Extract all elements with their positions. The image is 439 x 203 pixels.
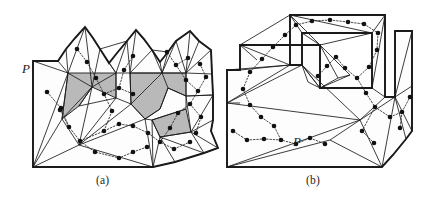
caption-panel-b: (b) [306,174,320,186]
panel-b: P [227,15,412,167]
panel-a-polygon-boundary [33,27,218,167]
figure-container: .pb { fill:#fdfdfd; stroke:#1a1a1a; stro… [0,0,439,203]
caption-panel-a: (a) [96,174,109,186]
panel-a: P [21,27,218,167]
panel-b-polygon-boundary [227,15,412,167]
panel-b-polygon-label: P [292,134,301,149]
panel-a-polygon-label: P [21,61,30,76]
geometry-figure-svg: .pb { fill:#fdfdfd; stroke:#1a1a1a; stro… [0,0,439,203]
